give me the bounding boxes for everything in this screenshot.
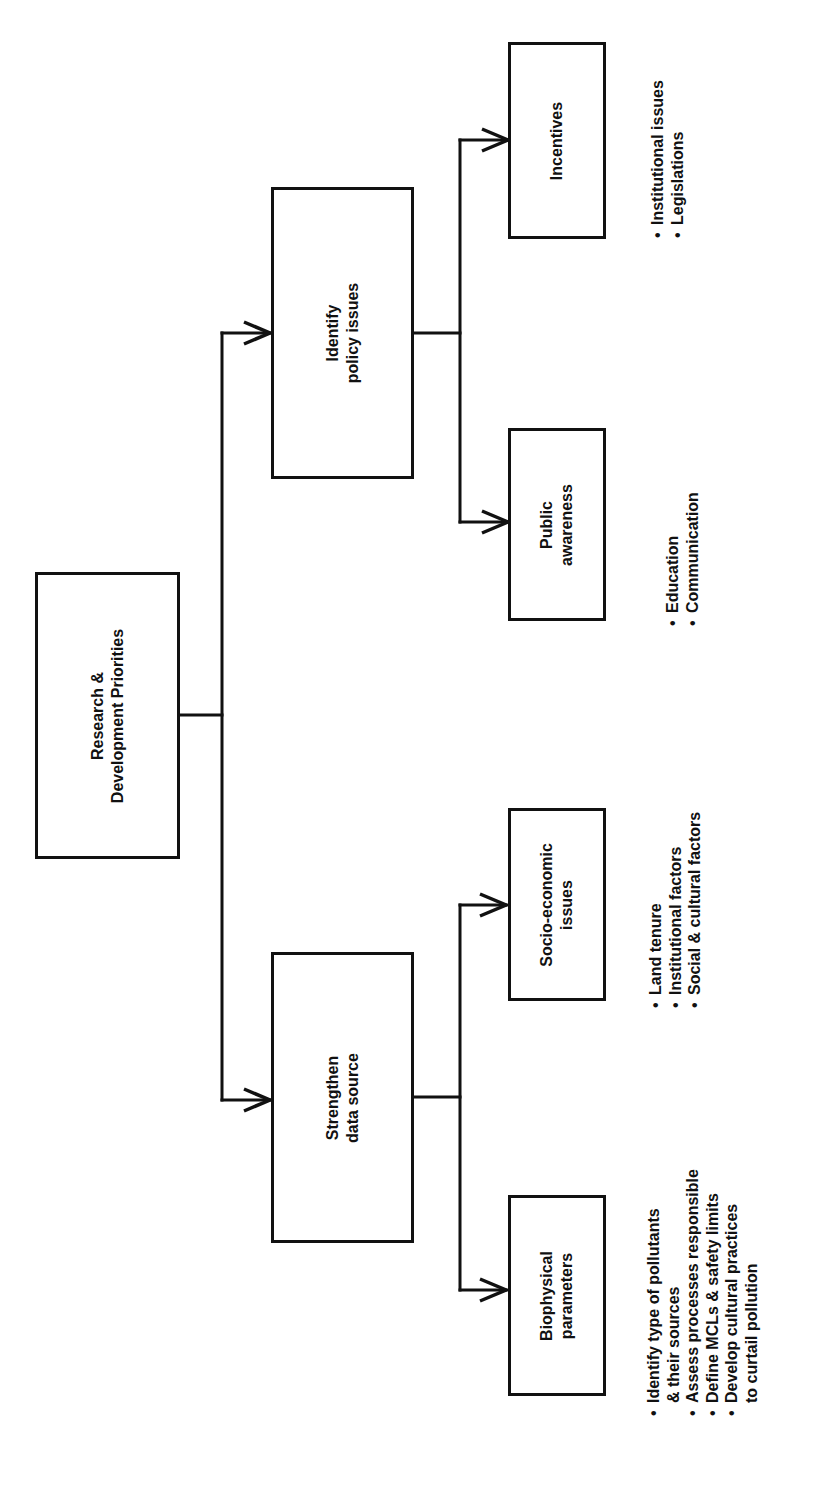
public-awareness-bullet-list: Education Communication xyxy=(663,492,702,626)
bullet-item: Develop cultural practices xyxy=(722,1169,742,1416)
bullet-item: Identify type of pollutants xyxy=(644,1169,664,1416)
identify-policy-issues-box: Identify policy issues xyxy=(271,187,414,479)
socio-economic-issues-box: Socio-economic issues xyxy=(508,808,606,1001)
strengthen-data-source-label: Strengthen data source xyxy=(323,1053,363,1143)
bullet-item: Institutional factors xyxy=(666,812,686,1008)
bullet-item: Assess processes responsible xyxy=(683,1169,703,1416)
public-awareness-label: Public awareness xyxy=(537,484,577,566)
incentives-label: Incentives xyxy=(547,101,567,179)
biophysical-bullet-list: Identify type of pollutants & their sour… xyxy=(644,1169,761,1416)
bullet-item: Legislations xyxy=(668,80,688,238)
bullet-item: Institutional issues xyxy=(648,80,668,238)
public-awareness-box: Public awareness xyxy=(508,428,606,621)
bullet-item: Social & cultural factors xyxy=(685,812,705,1008)
bullet-item: Education xyxy=(663,492,683,626)
strengthen-data-source-box: Strengthen data source xyxy=(271,952,414,1243)
bullet-item-continuation: & their sources xyxy=(664,1169,684,1416)
incentives-box: Incentives xyxy=(508,42,606,239)
biophysical-parameters-label: Biophysical parameters xyxy=(537,1251,577,1341)
socio-economic-bullet-list: Land tenure Institutional factors Social… xyxy=(646,812,705,1008)
biophysical-parameters-box: Biophysical parameters xyxy=(508,1195,606,1396)
incentives-bullet-list: Institutional issues Legislations xyxy=(648,80,687,238)
identify-policy-issues-label: Identify policy issues xyxy=(323,283,363,384)
bullet-item: Land tenure xyxy=(646,812,666,1008)
root-node-label: Research & Development Priorities xyxy=(88,628,128,802)
root-node-box: Research & Development Priorities xyxy=(35,572,180,859)
socio-economic-issues-label: Socio-economic issues xyxy=(537,843,577,967)
bullet-item: Communication xyxy=(683,492,703,626)
bullet-item: Define MCLs & safety limits xyxy=(703,1169,723,1416)
bullet-item-continuation: to curtail pollution xyxy=(742,1169,762,1416)
